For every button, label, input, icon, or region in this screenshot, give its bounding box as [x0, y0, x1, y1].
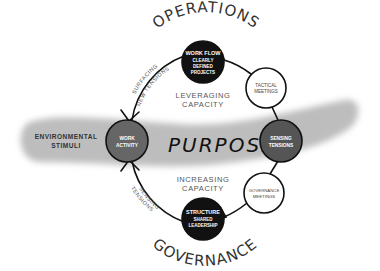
svg-text:SENSING: SENSING — [270, 136, 292, 141]
svg-text:CLEARLY: CLEARLY — [193, 58, 214, 63]
node-governance-meetings: GOVERNANCE MEETINGS — [244, 173, 284, 213]
operations-label: OPERATIONS — [149, 0, 263, 32]
purpose-cycle-diagram: OPERATIONS GOVERNANCE SURFACING NEW TENS… — [0, 0, 380, 271]
svg-text:WORK: WORK — [119, 136, 135, 141]
svg-text:TENSIONS: TENSIONS — [269, 143, 294, 148]
svg-text:STRUCTURE: STRUCTURE — [186, 209, 220, 215]
arrow-into-work-activity-top-icon — [121, 110, 139, 121]
svg-text:PROJECTS: PROJECTS — [191, 70, 215, 75]
node-structure: STRUCTURE SHARED LEADERSHIP — [182, 198, 224, 240]
node-sensing-tensions: SENSING TENSIONS — [260, 120, 302, 162]
svg-text:INCREASING: INCREASING — [177, 175, 230, 184]
svg-text:DEFINED: DEFINED — [193, 64, 214, 69]
svg-text:ENVIRONMENTAL: ENVIRONMENTAL — [35, 133, 98, 140]
node-work-flow: WORK FLOW CLEARLY DEFINED PROJECTS — [182, 41, 224, 83]
increasing-capacity-caption: INCREASING CAPACITY — [177, 175, 230, 193]
svg-text:WORK FLOW: WORK FLOW — [185, 50, 221, 56]
svg-text:LEADERSHIP: LEADERSHIP — [188, 223, 217, 228]
svg-text:CAPACITY: CAPACITY — [182, 184, 224, 193]
svg-text:ACTIVITY: ACTIVITY — [116, 143, 139, 148]
svg-text:SHARED: SHARED — [193, 217, 213, 222]
svg-text:MEETINGS: MEETINGS — [253, 194, 276, 199]
leveraging-capacity-caption: LEVERAGING CAPACITY — [176, 91, 231, 109]
svg-text:GOVERNANCE: GOVERNANCE — [249, 188, 280, 193]
svg-text:LEVERAGING: LEVERAGING — [176, 91, 231, 100]
svg-text:STIMULI: STIMULI — [51, 142, 81, 149]
node-tactical-meetings: TACTICAL MEETINGS — [246, 68, 286, 108]
node-work-activity: WORK ACTIVITY — [106, 120, 148, 162]
svg-text:TACTICAL: TACTICAL — [255, 83, 277, 88]
svg-text:MEETINGS: MEETINGS — [254, 89, 278, 94]
svg-text:CAPACITY: CAPACITY — [182, 100, 224, 109]
